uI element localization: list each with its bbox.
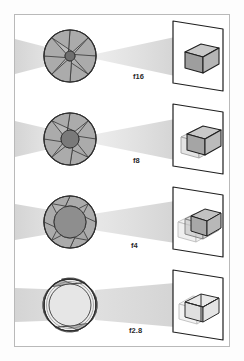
light-cone-right-f8 bbox=[91, 119, 175, 160]
fstop-label-f16: f16 bbox=[133, 72, 144, 81]
aperture-f16 bbox=[44, 30, 96, 82]
row-f2-8: f2.8 bbox=[15, 264, 231, 347]
aperture-f8 bbox=[44, 113, 96, 165]
light-cone-right-f2-8 bbox=[95, 283, 175, 327]
row-f16: f16 bbox=[15, 15, 231, 98]
figure-border: f16 bbox=[14, 14, 230, 347]
row-f16-graphic bbox=[15, 15, 231, 98]
aperture-f2-8 bbox=[43, 278, 97, 332]
row-f4: f4 bbox=[15, 181, 231, 264]
aperture-f4 bbox=[44, 196, 96, 248]
fstop-label-f8: f8 bbox=[133, 156, 140, 165]
row-f8-graphic bbox=[15, 98, 231, 181]
row-f4-graphic bbox=[15, 181, 231, 264]
light-cone-right-f4 bbox=[93, 201, 175, 243]
fstop-label-f4: f4 bbox=[131, 241, 138, 250]
row-f2-8-graphic bbox=[15, 264, 231, 347]
row-f8: f8 bbox=[15, 98, 231, 181]
fstop-label-f2-8: f2.8 bbox=[129, 326, 142, 335]
light-cone-right-f16 bbox=[91, 37, 175, 76]
aperture-depth-of-field-figure: f16 bbox=[0, 0, 244, 361]
